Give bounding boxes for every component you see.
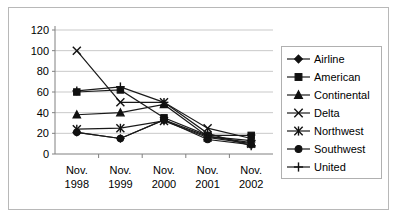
x-axis-tick-label: 2000 bbox=[152, 178, 176, 190]
x-axis-tick-label: 1998 bbox=[65, 178, 89, 190]
legend-item-southwest[interactable]: Southwest bbox=[282, 140, 381, 158]
legend-item-label: Delta bbox=[314, 106, 340, 120]
x-axis-tick-label: Nov. bbox=[240, 164, 262, 176]
x-axis-tick-label: Nov. bbox=[66, 164, 88, 176]
legend-item-continental[interactable]: Continental bbox=[282, 86, 381, 104]
x-axis-tick-label: Nov. bbox=[109, 164, 131, 176]
plus-marker-icon bbox=[286, 160, 311, 174]
y-axis-tick-label: 60 bbox=[37, 86, 49, 98]
diamond-marker-icon bbox=[286, 52, 311, 66]
legend-item-label: Northwest bbox=[314, 124, 364, 138]
circle-marker-icon bbox=[286, 142, 311, 156]
chart-legend: AirlineAmericanContinentalDeltaNorthwest… bbox=[281, 46, 382, 179]
y-axis-tick-label: 80 bbox=[37, 65, 49, 77]
data-point bbox=[74, 129, 80, 135]
x-axis-tick-label: 1999 bbox=[108, 178, 132, 190]
x-axis-tick-label: Nov. bbox=[153, 164, 175, 176]
data-point bbox=[161, 117, 167, 123]
chart-frame: 120100806040200Nov.1998Nov.1999Nov.2000N… bbox=[8, 7, 389, 210]
y-axis-tick-label: 120 bbox=[31, 24, 49, 36]
legend-item-label: Continental bbox=[314, 88, 370, 102]
asterisk-marker-icon bbox=[286, 124, 311, 138]
x-axis-tick-label: 2002 bbox=[239, 178, 263, 190]
y-axis-tick-label: 20 bbox=[37, 127, 49, 139]
cross-x-marker-icon bbox=[286, 106, 311, 120]
legend-item-label: American bbox=[314, 70, 360, 84]
legend-item-delta[interactable]: Delta bbox=[282, 104, 381, 122]
square-marker-icon bbox=[286, 70, 311, 84]
legend-item-northwest[interactable]: Northwest bbox=[282, 122, 381, 140]
data-point bbox=[117, 135, 123, 141]
x-axis-tick-label: 2001 bbox=[195, 178, 219, 190]
legend-item-label: Southwest bbox=[314, 142, 365, 156]
y-axis-tick-label: 100 bbox=[31, 45, 49, 57]
legend-item-airline[interactable]: Airline bbox=[282, 50, 381, 68]
y-axis-tick-label: 0 bbox=[43, 148, 49, 160]
legend-item-label: United bbox=[314, 160, 346, 174]
legend-item-label: Airline bbox=[314, 52, 345, 66]
triangle-marker-icon bbox=[286, 88, 311, 102]
legend-item-united[interactable]: United bbox=[282, 158, 381, 176]
y-axis-tick-label: 40 bbox=[37, 107, 49, 119]
x-axis-tick-label: Nov. bbox=[197, 164, 219, 176]
legend-item-american[interactable]: American bbox=[282, 68, 381, 86]
